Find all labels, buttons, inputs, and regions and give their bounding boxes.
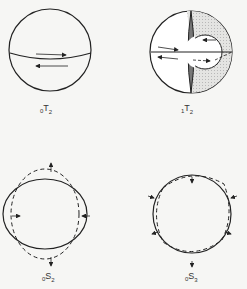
label-0S2: 0S2 [42,271,55,283]
label-0T2: 0T2 [40,103,52,115]
panel-1T2 [150,11,232,93]
panel-0S3 [148,175,237,267]
arrow-right-icon [36,54,66,55]
normal-modes-diagram [0,0,247,289]
panel-0S2 [3,163,90,266]
label-0S3: 0S3 [185,271,198,283]
label-1T2: 1T2 [181,103,193,115]
panel-0T2 [9,9,91,91]
